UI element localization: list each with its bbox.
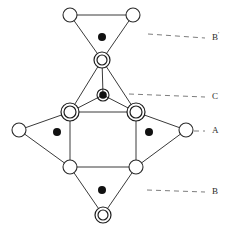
leader-line-b: [147, 190, 205, 192]
graph-figure: B'CAB: [0, 0, 234, 230]
face-marker-dot: [145, 128, 153, 136]
graph-node-open[interactable]: [12, 123, 26, 137]
region-label-a: A: [212, 125, 219, 135]
graph-labels-group: B'CAB: [212, 31, 219, 196]
region-label-c: C: [212, 91, 218, 101]
face-marker-dot: [98, 33, 106, 41]
region-label-b: B: [212, 186, 218, 196]
region-label-b-prime: B': [212, 31, 219, 42]
graph-edge: [136, 130, 186, 167]
graph-node-double[interactable]: [127, 103, 145, 121]
graph-node-double[interactable]: [61, 103, 79, 121]
graph-edge: [103, 167, 136, 215]
graph-edge: [70, 167, 103, 215]
graph-node-open[interactable]: [179, 123, 193, 137]
graph-node-open[interactable]: [63, 8, 77, 22]
graph-edge: [19, 130, 70, 167]
face-marker-dot: [53, 128, 61, 136]
leader-line-b-prime: [148, 34, 205, 38]
graph-node-double[interactable]: [95, 207, 111, 223]
leader-line-c: [129, 94, 205, 97]
graph-node-open[interactable]: [63, 160, 77, 174]
graph-edges-group: [19, 15, 186, 215]
graph-node-open[interactable]: [126, 8, 140, 22]
face-marker-dot: [98, 186, 106, 194]
graph-node-double[interactable]: [94, 52, 110, 68]
graph-node-open[interactable]: [129, 160, 143, 174]
